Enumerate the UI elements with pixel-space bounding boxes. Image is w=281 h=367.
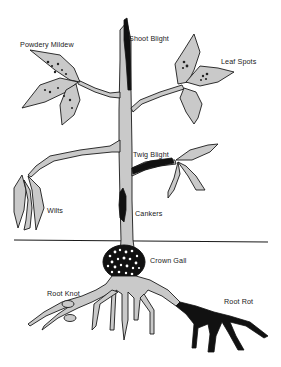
root-knot-swelling [62, 301, 74, 308]
powdery-mildew-leaves [22, 50, 80, 125]
label-leaf-spots: Leaf Spots [221, 57, 256, 66]
crown-gall [103, 245, 145, 279]
ground-line [14, 240, 268, 242]
branch-left-upper [78, 80, 120, 98]
plant-disease-diagram [0, 0, 281, 367]
branch-left-lower [28, 140, 120, 177]
root-system [28, 276, 268, 352]
root-knot-swelling [64, 315, 76, 322]
twig-blight-leaves [168, 144, 218, 198]
label-crown-gall: Crown Gall [150, 256, 187, 265]
label-wilts: Wilts [47, 206, 63, 215]
label-cankers: Cankers [135, 209, 162, 218]
label-shoot-blight: Shoot Blight [129, 34, 169, 43]
label-root-rot: Root Rot [224, 297, 253, 306]
canker-lesion [119, 188, 126, 222]
leaf-spots-leaves [175, 34, 234, 124]
wilts-leaves [14, 175, 44, 230]
twig-blight-lesion [132, 158, 174, 174]
branch-right-upper [131, 85, 184, 112]
root-rot-lesion [176, 302, 268, 352]
label-twig-blight: Twig Blight [133, 150, 169, 159]
label-powdery-mildew: Powdery Mildew [20, 40, 74, 49]
label-root-knot: Root Knot [47, 289, 80, 298]
